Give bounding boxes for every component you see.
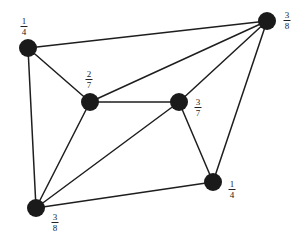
fraction-numerator: 3 <box>195 98 202 106</box>
node-e <box>204 173 222 191</box>
fraction-numerator: 3 <box>284 11 291 19</box>
graph-canvas <box>0 0 307 242</box>
node-label-d: 38 <box>284 11 291 30</box>
edge-a-d <box>28 21 267 48</box>
fraction-denominator: 7 <box>195 109 202 117</box>
node-label-b: 27 <box>86 70 93 89</box>
fraction-numerator: 1 <box>21 17 28 25</box>
fraction-numerator: 1 <box>229 180 236 188</box>
fraction-denominator: 4 <box>229 191 236 199</box>
edge-e-f <box>36 182 213 208</box>
fraction-denominator: 8 <box>52 224 59 232</box>
fraction-numerator: 3 <box>52 213 59 221</box>
node-label-e: 14 <box>229 180 236 199</box>
edge-a-f <box>28 48 36 208</box>
edge-b-f <box>36 102 90 208</box>
node-label-f: 38 <box>52 213 59 232</box>
node-c <box>170 93 188 111</box>
node-label-c: 37 <box>195 98 202 117</box>
fraction-denominator: 7 <box>86 81 93 89</box>
node-d <box>258 12 276 30</box>
nodes-layer <box>19 12 276 217</box>
edge-c-f <box>36 102 179 208</box>
node-f <box>27 199 45 217</box>
edge-a-b <box>28 48 90 102</box>
fraction-numerator: 2 <box>86 70 93 78</box>
fraction-denominator: 8 <box>284 22 291 30</box>
edge-b-d <box>90 21 267 102</box>
node-b <box>81 93 99 111</box>
node-a <box>19 39 37 57</box>
node-label-a: 14 <box>21 17 28 36</box>
fraction-denominator: 4 <box>21 28 28 36</box>
